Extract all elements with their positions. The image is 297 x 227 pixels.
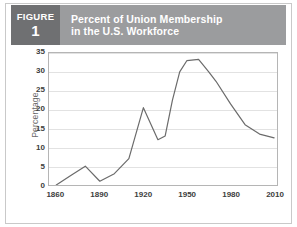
x-tick-1950: 1950 [178,190,196,199]
figure-card: FIGURE 1 Percent of Union Membership in … [0,0,297,227]
y-tick-35: 35 [36,48,45,56]
x-tick-1980: 1980 [222,190,240,199]
y-tick-30: 30 [36,67,45,75]
figure-title-line-2: in the U.S. Workforce [71,25,280,38]
x-tick-1920: 1920 [134,190,152,199]
x-tick-1890: 1890 [90,190,108,199]
figure-label: FIGURE [17,12,55,22]
y-tick-5: 5 [41,163,45,171]
chart: Percentage 05101520253035 18601890192019… [11,52,286,220]
data-line [49,53,277,185]
x-tick-1860: 1860 [46,190,64,199]
x-axis-tick-labels: 186018901920195019802010 [48,188,278,204]
figure-title-bar: Percent of Union Membership in the U.S. … [60,5,286,45]
y-tick-0: 0 [41,182,45,190]
series-line-0 [56,59,274,185]
y-tick-25: 25 [36,86,45,94]
y-tick-15: 15 [36,125,45,133]
figure-title-line-1: Percent of Union Membership [71,13,280,26]
y-axis-tick-labels: 05101520253035 [25,52,45,186]
x-tick-2010: 2010 [266,190,284,199]
figure-number: 1 [31,23,39,38]
y-tick-20: 20 [36,105,45,113]
figure-header: FIGURE 1 Percent of Union Membership in … [11,5,286,45]
y-tick-10: 10 [36,144,45,152]
plot-area [48,52,278,186]
figure-number-box: FIGURE 1 [11,5,60,45]
